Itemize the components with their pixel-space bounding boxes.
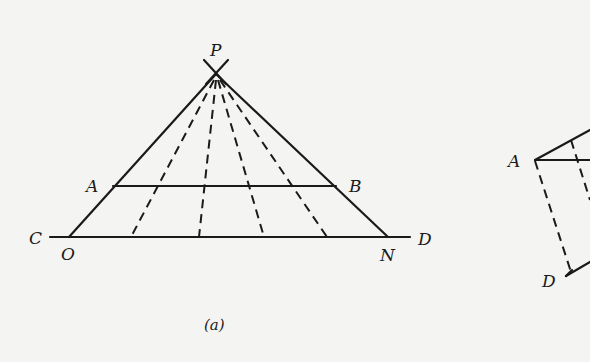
line-upper [535,130,590,160]
p-arc-mark-2 [206,60,228,84]
caption-a: (a) [204,316,225,334]
dashed-inner [571,140,590,200]
dashed-ad [535,161,571,272]
line-pn [216,74,388,237]
label-p: P [209,40,222,60]
dashed-ray-3 [218,80,264,237]
label-d-right: D [541,271,556,291]
dashed-ray-2 [199,80,216,237]
label-o: O [61,244,75,264]
label-a-right: A [506,151,520,171]
dashed-ray-1 [131,80,214,237]
label-a: A [84,176,98,196]
figure-b: A D [506,130,590,291]
geometry-figure: P A B C O N D (a) A D [0,0,590,362]
figure-a: P A B C O N D (a) [29,40,432,334]
dashed-ray-4 [220,80,327,237]
line-po [69,74,216,237]
label-d: D [417,229,432,249]
label-b: B [348,176,362,196]
label-c: C [29,228,42,248]
label-n: N [379,245,396,265]
